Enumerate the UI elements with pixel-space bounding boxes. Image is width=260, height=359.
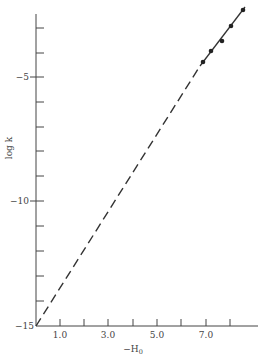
x-ticks	[60, 319, 230, 326]
data-point	[201, 60, 206, 65]
data-point	[229, 24, 234, 29]
y-tick-label-minus15: −15	[15, 321, 34, 331]
x-tick-label-7: 7.0	[199, 330, 214, 340]
data-point	[220, 39, 225, 44]
y-tick-label-minus10: −10	[10, 196, 29, 206]
x-tick-label-5: 5.0	[150, 330, 165, 340]
y-tick-label-minus5: −5	[16, 72, 30, 82]
data-point	[209, 49, 214, 54]
x-tick-label-3: 3.0	[101, 330, 116, 340]
x-axis-label-subscript: 0	[139, 348, 143, 356]
solid-fit-line	[200, 7, 245, 66]
y-axis-label: log k	[4, 136, 14, 159]
x-tick-label-1: 1.0	[53, 330, 68, 340]
x-axis-label-main: −H	[123, 344, 139, 354]
dashed-extrapolation-line	[36, 66, 200, 326]
x-axis-label: −H0	[123, 344, 143, 356]
data-point	[241, 8, 246, 13]
y-ticks	[30, 28, 44, 301]
chart-canvas: −5 −10 −15 1.0 3.0 5.0 7.0 log k −H0	[0, 0, 260, 359]
